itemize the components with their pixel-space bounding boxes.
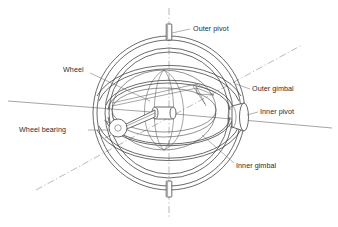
wheel-bearing-circle [109,119,127,137]
diagram-canvas: .ln { fill:none; stroke:#3a3a3a; stroke-… [0,0,338,227]
inner-pivot-face [240,103,249,131]
label-inner-pivot: Inner pivot [260,108,294,115]
outer-pivot-pin-top [166,24,172,40]
label-wheel: Wheel [63,66,84,73]
label-outer-gimbal: Outer gimbal [252,85,294,92]
label-outer-pivot: Outer pivot [193,25,229,32]
outer-pivot-pin-bottom [166,181,172,197]
label-wheel-bearing: Wheel bearing [19,126,66,133]
label-inner-gimbal: Inner gimbal [236,162,276,169]
